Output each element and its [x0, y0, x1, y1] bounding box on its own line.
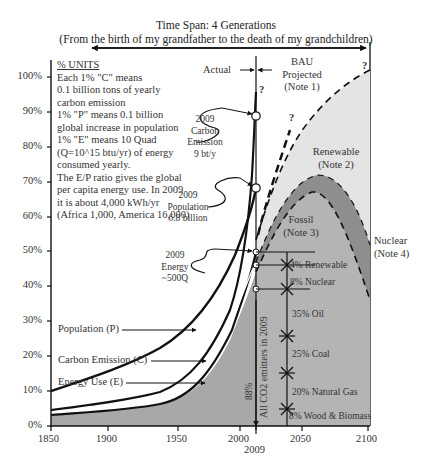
- units-heading: % UNITS: [57, 59, 207, 72]
- fossil-label: Fossil: [276, 214, 326, 227]
- callout-line: 9 bt/y: [180, 149, 230, 161]
- y-tick-80: 80%: [4, 140, 42, 151]
- units-line: Each 1% "C" means: [57, 72, 207, 85]
- callout-line: ~500Q: [155, 273, 195, 285]
- fossil-region-label: Fossil (Note 3): [276, 214, 326, 239]
- units-line: consumed yearly.: [57, 159, 207, 172]
- callout-year: 2009: [155, 250, 195, 262]
- emitters-88-label: 88%: [243, 383, 256, 400]
- population-callout-arrow: [240, 178, 252, 186]
- units-line: 0.1 billion tons of yearly: [57, 84, 207, 97]
- carbon-2009-callout: 2009 Carbon Emission 9 bt/y: [180, 114, 230, 160]
- population-2009-callout: 2009 Population 6.8 billion: [158, 190, 218, 225]
- population-2009-marker: [252, 184, 260, 192]
- note1-line: (Note 1): [272, 81, 332, 94]
- x-marker-2009: 2009: [244, 444, 265, 455]
- x-tick-1950: 1950: [166, 433, 187, 444]
- y-tick-30: 30%: [4, 314, 42, 325]
- units-line: carbon emission: [57, 97, 207, 110]
- projected-line: Projected: [272, 69, 332, 82]
- bau-line: BAU: [272, 56, 332, 69]
- y-tick-20: 20%: [4, 349, 42, 360]
- y-tick-70: 70%: [4, 175, 42, 186]
- energy-series-label: Energy Use (E): [58, 376, 123, 389]
- energy-use-area: [51, 272, 256, 426]
- y-tick-0: 0%: [4, 419, 42, 430]
- renewable-label: Renewable: [306, 146, 366, 159]
- callout-year: 2009: [180, 114, 230, 126]
- x-tick-1900: 1900: [96, 433, 117, 444]
- population-series-label: Population (P): [58, 323, 119, 336]
- question-mark-2100: ?: [362, 60, 367, 73]
- mix-nuclear-label: 8% Nuclear: [290, 276, 335, 289]
- y-tick-90: 90%: [4, 105, 42, 116]
- units-line: The E/P ratio gives the global: [57, 172, 207, 185]
- mix-renewable-label: 4% Renewable: [290, 259, 347, 272]
- emitters-label: All CO2 emitters in 2009: [258, 316, 271, 418]
- energy-2009-callout: 2009 Energy ~500Q: [155, 250, 195, 285]
- renewable-region-label: Renewable (Note 2): [306, 146, 366, 171]
- mix-oil-label: 35% Oil: [292, 308, 324, 321]
- nuclear-region-label: Nuclear (Note 4): [374, 235, 409, 260]
- y-tick-100: 100%: [4, 70, 42, 81]
- carbon-series-label: Carbon Emission (C): [58, 354, 147, 367]
- callout-line: Emission: [180, 137, 230, 149]
- callout-line: 6.8 billion: [158, 213, 218, 225]
- callout-line: Carbon: [180, 126, 230, 138]
- x-tick-2000: 2000: [228, 433, 249, 444]
- carbon-2009-marker: [252, 112, 260, 120]
- energy-callout-arrow: [215, 249, 252, 251]
- question-mark-carbon: ?: [259, 84, 264, 97]
- mix-natural-gas-label: 20% Natural Gas: [292, 386, 357, 399]
- callout-year: 2009: [158, 190, 218, 202]
- x-tick-1850: 1850: [38, 433, 59, 444]
- nuclear-label: Nuclear: [374, 235, 409, 248]
- y-tick-40: 40%: [4, 279, 42, 290]
- mix-wood-biomass-label: 8% Wood & Biomass: [289, 410, 371, 423]
- x-tick-2100: 2100: [356, 433, 377, 444]
- y-tick-50: 50%: [4, 244, 42, 255]
- callout-line: Population: [158, 202, 218, 214]
- mix-coal-label: 25% Coal: [292, 348, 330, 361]
- x-tick-2050: 2050: [290, 433, 311, 444]
- note3-label: (Note 3): [276, 227, 326, 240]
- bau-label: BAU Projected (Note 1): [272, 56, 332, 94]
- note2-label: (Note 2): [306, 159, 366, 172]
- callout-line: Energy: [155, 262, 195, 274]
- y-tick-60: 60%: [4, 210, 42, 221]
- actual-label: Actual: [203, 64, 231, 77]
- note4-label: (Note 4): [374, 248, 409, 261]
- question-mark-bau: ?: [289, 112, 294, 125]
- y-tick-10: 10%: [4, 384, 42, 395]
